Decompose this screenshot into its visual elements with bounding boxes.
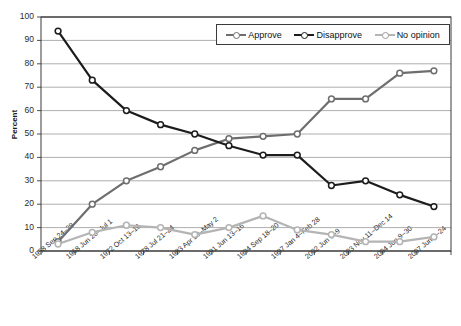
- data-point: [55, 28, 61, 34]
- legend-item-approve[interactable]: Approve: [226, 30, 282, 40]
- data-point: [260, 133, 266, 139]
- legend-label-approve: Approve: [248, 30, 282, 40]
- legend-label-disapprove: Disapprove: [316, 30, 362, 40]
- data-point: [158, 164, 164, 170]
- data-point: [329, 232, 335, 238]
- plot-area: [0, 0, 461, 326]
- data-point: [89, 201, 95, 207]
- legend-label-no-opinion: No opinion: [397, 30, 440, 40]
- data-point: [431, 234, 437, 240]
- data-point: [363, 178, 369, 184]
- data-point: [192, 131, 198, 137]
- data-point: [55, 241, 61, 247]
- data-point: [89, 229, 95, 235]
- data-point: [158, 122, 164, 128]
- series-line-approve: [58, 71, 434, 242]
- data-point: [124, 108, 130, 114]
- data-point: [226, 136, 232, 142]
- data-point: [294, 152, 300, 158]
- data-point: [397, 192, 403, 198]
- data-point: [260, 152, 266, 158]
- data-point: [329, 96, 335, 102]
- legend-item-no-opinion[interactable]: No opinion: [375, 30, 440, 40]
- data-point: [431, 68, 437, 74]
- series-line-no-opinion: [58, 216, 434, 244]
- data-point: [158, 225, 164, 231]
- data-point: [397, 70, 403, 76]
- legend-marker-disapprove: [294, 30, 314, 39]
- chart-legend: Approve Disapprove No opinion: [216, 24, 450, 45]
- series-line-disapprove: [58, 31, 434, 207]
- data-point: [329, 183, 335, 189]
- data-point: [294, 227, 300, 233]
- data-point: [397, 239, 403, 245]
- data-point: [124, 222, 130, 228]
- data-point: [260, 213, 266, 219]
- data-point: [226, 143, 232, 149]
- data-point: [192, 147, 198, 153]
- data-point: [124, 178, 130, 184]
- data-point: [363, 96, 369, 102]
- data-point: [89, 77, 95, 83]
- data-point: [363, 239, 369, 245]
- legend-marker-no-opinion: [375, 30, 395, 39]
- legend-marker-approve: [226, 30, 246, 39]
- data-point: [431, 204, 437, 210]
- data-point: [226, 225, 232, 231]
- chart-container: Percent 1009080706050403020100 1958 Sep …: [0, 0, 461, 326]
- data-point: [294, 131, 300, 137]
- legend-item-disapprove[interactable]: Disapprove: [294, 30, 362, 40]
- data-point: [192, 232, 198, 238]
